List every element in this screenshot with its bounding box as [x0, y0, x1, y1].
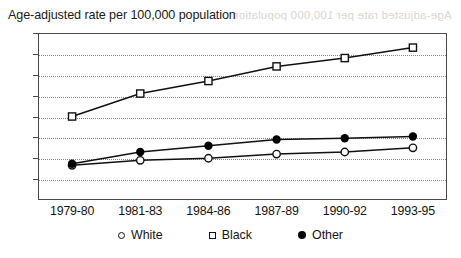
chart-legend: WhiteBlackOther	[0, 228, 461, 242]
x-tick-label: 1990-92	[323, 204, 367, 218]
gridline	[39, 138, 446, 139]
x-tick-label: 1987-89	[255, 204, 299, 218]
y-tick-mark	[33, 96, 38, 97]
legend-item-other: Other	[298, 228, 343, 242]
chart-title: Age-adjusted rate per 100,000 population	[8, 8, 236, 22]
y-tick-mark	[33, 54, 38, 55]
legend-label: White	[131, 228, 163, 242]
scan-bleedthrough-artifact: Age-adjusted rate per 100,000 population	[232, 9, 452, 21]
y-tick-mark	[33, 75, 38, 76]
gridline	[39, 55, 446, 56]
open-circle-icon	[118, 232, 125, 239]
gridline	[39, 97, 446, 98]
x-tick-label: 1981-83	[118, 204, 162, 218]
filled-circle-icon	[298, 231, 306, 239]
y-tick-mark	[33, 33, 38, 34]
legend-item-black: Black	[209, 228, 252, 242]
y-tick-mark	[33, 117, 38, 118]
gridline	[39, 159, 446, 160]
x-tick-label: 1984-86	[186, 204, 230, 218]
y-tick-mark	[33, 179, 38, 180]
legend-label: Black	[222, 228, 252, 242]
x-tick-label: 1979-80	[50, 204, 94, 218]
open-square-icon	[209, 232, 216, 239]
gridline	[39, 180, 446, 181]
chart-container: Age-adjusted rate per 100,000 population…	[0, 0, 461, 258]
y-tick-mark	[33, 137, 38, 138]
legend-label: Other	[312, 228, 343, 242]
x-tick-label: 1993-95	[391, 204, 435, 218]
gridline	[39, 76, 446, 77]
gridline	[39, 118, 446, 119]
plot-area	[38, 33, 447, 200]
legend-item-white: White	[118, 228, 163, 242]
y-tick-mark	[33, 158, 38, 159]
